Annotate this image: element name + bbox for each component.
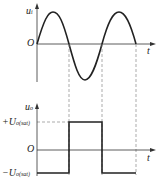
neg-sat-label: −Uo(sat) bbox=[2, 168, 30, 178]
output-square-wave bbox=[37, 122, 136, 173]
bottom-x-label: t bbox=[147, 153, 150, 163]
dashed-guides bbox=[37, 44, 136, 175]
bottom-y-label: uo bbox=[25, 102, 33, 112]
bottom-y-arrow-icon bbox=[35, 103, 39, 109]
top-x-label: t bbox=[147, 46, 150, 56]
bottom-axes bbox=[37, 106, 153, 176]
top-x-arrow-icon bbox=[150, 42, 156, 46]
bottom-x-arrow-icon bbox=[150, 148, 156, 152]
top-origin-label: O bbox=[27, 38, 34, 48]
input-sine-wave bbox=[37, 12, 136, 80]
pos-sat-label: +Uo(sat) bbox=[2, 117, 30, 127]
comparator-waveform-diagram bbox=[0, 0, 163, 185]
bottom-origin-label: O bbox=[27, 144, 34, 154]
top-y-arrow-icon bbox=[35, 3, 39, 9]
top-y-label: ui bbox=[26, 6, 33, 16]
